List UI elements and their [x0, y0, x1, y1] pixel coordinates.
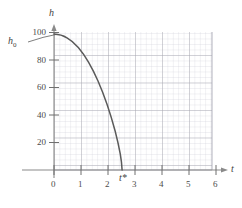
graph-figure: h t h0 t* 100 80 60 40 20 0 1 2 3 4 5 6	[0, 0, 242, 208]
x-tick-label-4: 4	[159, 180, 164, 189]
y-axis-label: h	[49, 8, 54, 18]
h0-subscript: 0	[13, 41, 17, 49]
x-tick-label-1: 1	[78, 180, 83, 189]
y-tick-label-100: 100	[24, 28, 46, 37]
y-tick-label-60: 60	[24, 83, 46, 92]
t-star-label: t*	[119, 173, 127, 183]
y-tick-label-80: 80	[24, 56, 46, 65]
y-tick-label-40: 40	[24, 111, 46, 120]
x-tick-label-0: 0	[51, 180, 56, 189]
x-tick-label-3: 3	[132, 180, 137, 189]
x-tick-label-2: 2	[105, 180, 110, 189]
h0-label: h0	[8, 36, 17, 49]
x-tick-label-6: 6	[213, 180, 218, 189]
grid-major	[54, 32, 212, 170]
x-tick-label-5: 5	[186, 180, 191, 189]
x-axis-label: t	[231, 164, 234, 174]
y-tick-label-20: 20	[24, 138, 46, 147]
